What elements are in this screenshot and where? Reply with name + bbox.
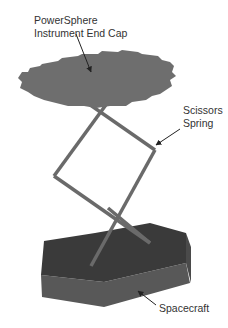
- spacecraft-label: Spacecraft: [159, 302, 209, 314]
- spring-arrow: [156, 129, 180, 145]
- spacecraft-body: [41, 223, 191, 307]
- end-cap-label-line2: Instrument End Cap: [34, 27, 128, 39]
- spring-label-line1: Scissors: [183, 104, 223, 116]
- end-cap-disk: [18, 50, 176, 108]
- powersphere-diagram: PowerSphere Instrument End Cap Scissors …: [0, 0, 228, 328]
- end-cap-label-line1: PowerSphere: [34, 14, 98, 26]
- spring-label-line2: Spring: [183, 117, 214, 129]
